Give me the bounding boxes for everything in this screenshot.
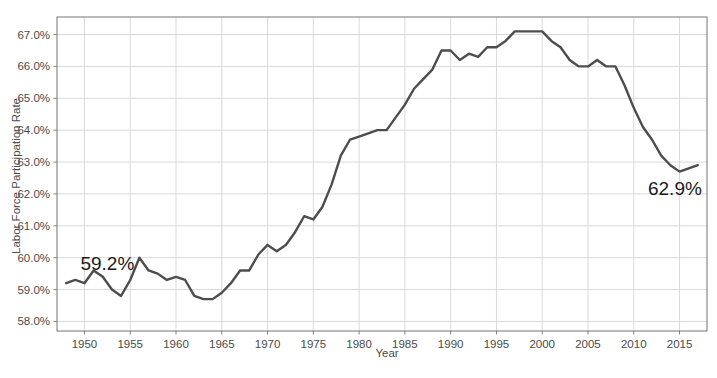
y-tick-label: 67.0% <box>17 29 50 41</box>
y-tick-label: 64.0% <box>17 124 50 136</box>
data-annotation-label: 62.9% <box>648 178 702 199</box>
x-tick-label: 1970 <box>255 338 281 350</box>
y-tick-label: 58.0% <box>17 315 50 327</box>
chart-figure: 58.0%59.0%60.0%61.0%62.0%63.0%64.0%65.0%… <box>0 0 717 378</box>
x-tick-label: 2015 <box>667 338 693 350</box>
x-tick-label: 2005 <box>575 338 601 350</box>
x-tick-label: 1950 <box>72 338 98 350</box>
x-tick-label: 1965 <box>209 338 235 350</box>
y-axis-title: Labor Force Participation Rate <box>10 98 22 254</box>
y-axis-tick-labels: 58.0%59.0%60.0%61.0%62.0%63.0%64.0%65.0%… <box>17 29 57 328</box>
gridlines <box>57 17 707 331</box>
y-tick-label: 66.0% <box>17 60 50 72</box>
x-tick-label: 1960 <box>163 338 189 350</box>
plot-area-border <box>57 17 707 331</box>
x-tick-label: 1995 <box>484 338 510 350</box>
y-tick-label: 61.0% <box>17 220 50 232</box>
x-tick-label: 2000 <box>529 338 555 350</box>
line-chart: 58.0%59.0%60.0%61.0%62.0%63.0%64.0%65.0%… <box>0 0 717 378</box>
data-series-line <box>66 31 698 299</box>
x-tick-label: 1975 <box>301 338 327 350</box>
x-axis-title: Year <box>375 347 398 359</box>
x-tick-label: 1955 <box>117 338 143 350</box>
y-tick-label: 59.0% <box>17 284 50 296</box>
x-tick-label: 1980 <box>346 338 372 350</box>
y-tick-label: 60.0% <box>17 252 50 264</box>
y-tick-label: 62.0% <box>17 188 50 200</box>
y-tick-label: 65.0% <box>17 92 50 104</box>
data-annotation-label: 59.2% <box>80 253 134 274</box>
plot-border <box>57 17 707 331</box>
x-tick-label: 1990 <box>438 338 464 350</box>
y-tick-label: 63.0% <box>17 156 50 168</box>
series-line-labor-force-participation-rate <box>66 31 698 299</box>
x-tick-label: 2010 <box>621 338 647 350</box>
